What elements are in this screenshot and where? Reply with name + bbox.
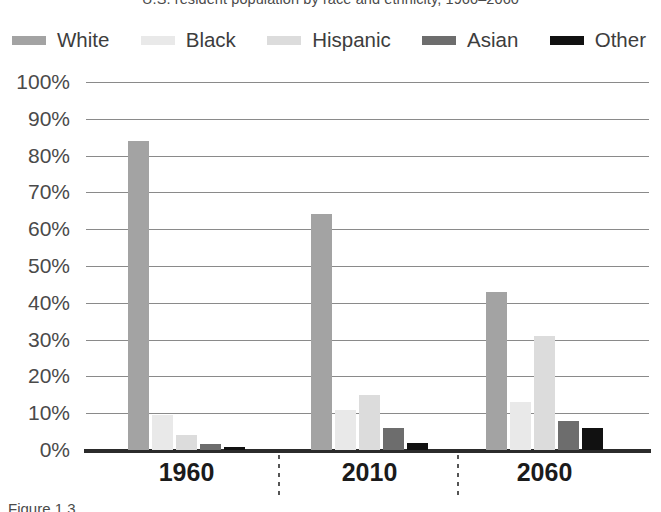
gridline	[86, 303, 649, 304]
bar-1960-hispanic	[176, 435, 197, 450]
bar-1960-black	[152, 415, 173, 450]
gridline	[86, 82, 649, 83]
y-tick-label: 0%	[40, 438, 70, 462]
chart-figure: U.S. resident population by race and eth…	[0, 0, 661, 512]
legend-swatch-icon	[550, 36, 584, 45]
bar-1960-other	[224, 447, 245, 450]
gridline	[86, 229, 649, 230]
legend-label: Black	[186, 28, 236, 52]
chart-title: U.S. resident population by race and eth…	[0, 0, 661, 7]
legend-label: White	[57, 28, 109, 52]
y-tick-label: 10%	[28, 401, 70, 425]
legend-item-hispanic[interactable]: Hispanic	[267, 28, 391, 52]
y-tick-label: 50%	[28, 254, 70, 278]
bar-2060-black	[510, 402, 531, 450]
x-tick-label-2060: 2060	[517, 458, 573, 487]
legend-swatch-icon	[422, 36, 456, 45]
bar-2010-other	[407, 443, 428, 450]
figure-caption: Figure 1.3	[8, 500, 76, 512]
gridline	[86, 156, 649, 157]
gridline	[86, 340, 649, 341]
bar-1960-asian	[200, 444, 221, 450]
y-tick-label: 100%	[16, 70, 70, 94]
y-tick-label: 60%	[28, 217, 70, 241]
legend-label: Hispanic	[312, 28, 391, 52]
plot-area	[86, 82, 649, 450]
group-separator	[278, 455, 280, 497]
y-tick-label: 80%	[28, 144, 70, 168]
gridline	[86, 119, 649, 120]
bar-2060-hispanic	[534, 336, 555, 450]
chart-legend: WhiteBlackHispanicAsianOther	[12, 27, 652, 53]
legend-item-asian[interactable]: Asian	[422, 28, 518, 52]
legend-label: Other	[595, 28, 646, 52]
bar-2010-hispanic	[359, 395, 380, 450]
bar-2060-white	[486, 292, 507, 450]
gridline	[86, 192, 649, 193]
legend-item-white[interactable]: White	[12, 28, 109, 52]
y-tick-label: 30%	[28, 328, 70, 352]
y-tick-label: 40%	[28, 291, 70, 315]
group-separator	[457, 455, 459, 497]
y-tick-label: 20%	[28, 364, 70, 388]
bar-2010-white	[311, 214, 332, 450]
y-axis-labels: 100%90%80%70%60%50%40%30%20%10%0%	[0, 82, 80, 450]
bar-1960-white	[128, 141, 149, 450]
bar-2010-black	[335, 410, 356, 450]
y-tick-label: 70%	[28, 180, 70, 204]
y-tick-label: 90%	[28, 107, 70, 131]
legend-item-other[interactable]: Other	[550, 28, 646, 52]
bar-2010-asian	[383, 428, 404, 450]
legend-swatch-icon	[267, 36, 301, 45]
bar-2060-asian	[558, 421, 579, 450]
legend-swatch-icon	[141, 36, 175, 45]
x-tick-label-1960: 1960	[159, 458, 215, 487]
legend-swatch-icon	[12, 36, 46, 45]
bar-2060-other	[582, 428, 603, 450]
legend-item-black[interactable]: Black	[141, 28, 236, 52]
legend-label: Asian	[467, 28, 518, 52]
gridline	[86, 376, 649, 377]
x-tick-label-2010: 2010	[342, 458, 398, 487]
gridline	[86, 266, 649, 267]
